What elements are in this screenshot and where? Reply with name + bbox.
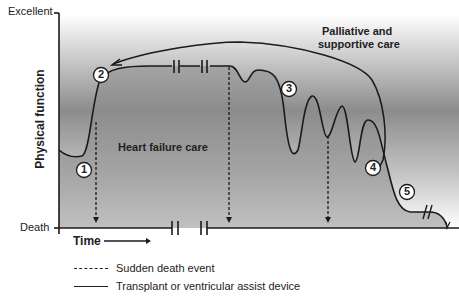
legend-label-sudden-death: Sudden death event [116, 262, 214, 274]
marker-1: 1 [80, 163, 88, 175]
marker-5: 5 [403, 185, 411, 197]
marker-4: 4 [369, 161, 377, 173]
marker-3: 3 [285, 82, 293, 94]
heart-failure-care-label: Heart failure care [118, 141, 208, 153]
palliative-label-line2: supportive care [318, 38, 396, 50]
palliative-label-line1: Palliative and [322, 25, 392, 37]
y-axis-bottom-label: Death [20, 221, 49, 233]
y-axis-top-label: Excellent [8, 5, 53, 17]
legend-item-transplant: Transplant or ventricular assist device [74, 280, 300, 292]
x-axis-title: Time [73, 234, 101, 248]
y-axis-title: Physical function [33, 69, 47, 169]
legend-item-sudden-death: Sudden death event [74, 262, 214, 274]
y-axis [54, 13, 59, 234]
legend-label-transplant: Transplant or ventricular assist device [116, 280, 300, 292]
marker-2: 2 [97, 68, 105, 80]
dashed-line-icon [74, 268, 108, 269]
solid-line-icon [74, 286, 108, 287]
